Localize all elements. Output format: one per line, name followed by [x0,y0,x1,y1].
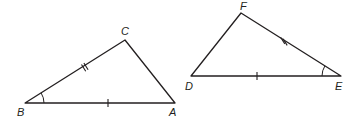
triangle-def-outline [191,13,341,76]
angle-b-arc [41,93,44,103]
vertex-label-b: B [17,106,24,118]
angle-e-arc [322,66,325,76]
vertex-label-a: A [168,106,176,118]
triangle-abc-outline [25,40,175,103]
triangle-abc: B A C [17,25,176,118]
vertex-label-d: D [185,80,193,92]
vertex-label-c: C [121,25,129,37]
congruent-triangles-diagram: B A C D E F [0,0,355,128]
triangle-def: D E F [185,0,343,92]
vertex-label-e: E [335,80,343,92]
vertex-label-f: F [240,0,248,12]
